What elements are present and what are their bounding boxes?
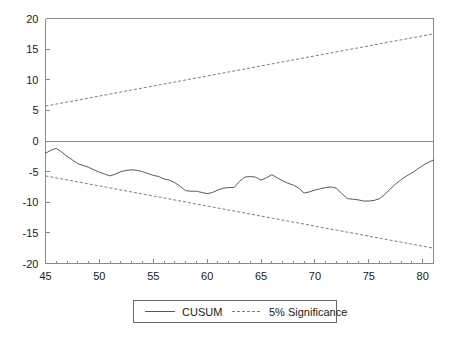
y-tick-label: 10 <box>26 74 38 86</box>
y-tick-label: -15 <box>23 227 39 239</box>
y-tick-label: -20 <box>23 258 39 270</box>
x-tick-label: 75 <box>363 270 375 282</box>
y-tick-label: 15 <box>26 43 38 55</box>
y-tick-label: -5 <box>29 166 39 178</box>
x-tick-label: 80 <box>417 270 429 282</box>
x-axis-ticks <box>46 259 423 264</box>
x-tick-label: 60 <box>201 270 213 282</box>
chart-canvas: 20151050-5-10-15-20 4550556065707580 CUS… <box>0 0 449 337</box>
significance-lower-line <box>46 176 434 248</box>
y-tick-label: 0 <box>32 135 38 147</box>
cusum-chart: 20151050-5-10-15-20 4550556065707580 CUS… <box>0 0 449 337</box>
x-tick-label: 65 <box>255 270 267 282</box>
legend-label-cusum: CUSUM <box>182 306 222 318</box>
x-tick-label: 50 <box>93 270 105 282</box>
legend-label-significance: 5% Significance <box>269 306 347 318</box>
y-tick-label: -10 <box>23 196 39 208</box>
legend: CUSUM 5% Significance <box>134 301 348 323</box>
y-axis-labels: 20151050-5-10-15-20 <box>23 13 39 270</box>
x-tick-label: 55 <box>147 270 159 282</box>
cusum-line <box>46 148 434 201</box>
y-tick-label: 20 <box>26 13 38 25</box>
x-tick-label: 70 <box>309 270 321 282</box>
x-axis-labels: 4550556065707580 <box>39 270 428 282</box>
y-tick-label: 5 <box>32 104 38 116</box>
significance-upper-line <box>46 34 434 106</box>
x-tick-label: 45 <box>39 270 51 282</box>
